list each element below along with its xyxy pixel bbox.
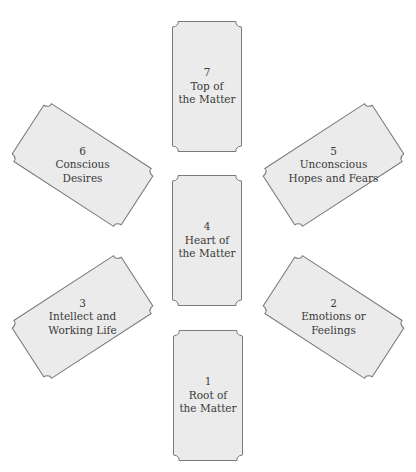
card-label: 3 Intellect and Working Life bbox=[17, 282, 148, 352]
card-label: 7 Top of the Matter bbox=[172, 21, 242, 152]
card-7-top-of-the-matter: 7 Top of the Matter bbox=[172, 21, 242, 152]
card-title-line1: Heart of bbox=[185, 234, 229, 248]
card-title-line2: the Matter bbox=[178, 247, 235, 261]
card-number: 1 bbox=[205, 375, 212, 389]
card-label: 2 Emotions or Feelings bbox=[268, 282, 399, 352]
card-title-line1: Intellect and bbox=[49, 310, 116, 324]
card-title-line1: Conscious bbox=[55, 158, 109, 172]
card-5-unconscious-hopes-and-fears: 5 Unconscious Hopes and Fears bbox=[260, 100, 408, 230]
card-number: 6 bbox=[79, 145, 86, 159]
card-title-line1: Emotions or bbox=[301, 310, 366, 324]
card-2-emotions-or-feelings: 2 Emotions or Feelings bbox=[260, 252, 408, 382]
card-title-line1: Unconscious bbox=[300, 158, 368, 172]
card-4-heart-of-the-matter: 4 Heart of the Matter bbox=[172, 175, 242, 306]
card-title-line2: the Matter bbox=[179, 402, 236, 416]
card-title-line1: Root of bbox=[189, 389, 227, 403]
card-title-line2: Working Life bbox=[48, 324, 116, 338]
card-number: 5 bbox=[330, 145, 337, 159]
card-label: 6 Conscious Desires bbox=[17, 130, 148, 200]
card-title-line2: Feelings bbox=[311, 324, 356, 338]
card-label: 4 Heart of the Matter bbox=[172, 175, 242, 306]
card-title-line2: the Matter bbox=[178, 93, 235, 107]
card-title-line2: Desires bbox=[62, 172, 102, 186]
card-title-line1: Top of bbox=[191, 80, 224, 94]
card-label: 1 Root of the Matter bbox=[173, 330, 243, 461]
card-3-intellect-and-working-life: 3 Intellect and Working Life bbox=[9, 252, 157, 382]
card-number: 4 bbox=[204, 220, 211, 234]
card-label: 5 Unconscious Hopes and Fears bbox=[268, 130, 399, 200]
card-number: 2 bbox=[330, 297, 337, 311]
card-6-conscious-desires: 6 Conscious Desires bbox=[9, 100, 157, 230]
card-title-line2: Hopes and Fears bbox=[289, 172, 379, 186]
card-number: 7 bbox=[204, 66, 211, 80]
card-1-root-of-the-matter: 1 Root of the Matter bbox=[173, 330, 243, 461]
card-number: 3 bbox=[79, 297, 86, 311]
